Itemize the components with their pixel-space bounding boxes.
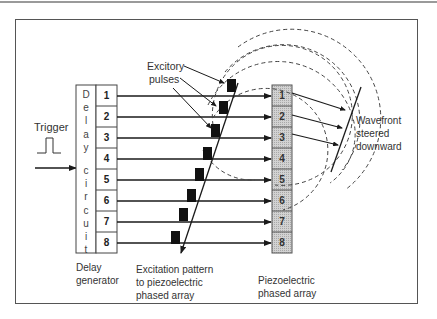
array-element-5: 5 <box>272 169 292 190</box>
excitation-pattern-arrow <box>181 83 238 253</box>
array-element-3: 3 <box>272 127 292 148</box>
piezo-array-label-2: phased array <box>258 288 316 300</box>
delay-letter: a <box>76 128 96 141</box>
delay-vertical-label: D e l a y c i r c u i t <box>76 88 96 256</box>
delay-generator-label-1: Delay <box>76 262 102 274</box>
delay-channel-numbers: 1 2 3 4 5 6 7 8 <box>96 85 117 253</box>
excitation-pattern-label-3: phased array <box>136 290 194 302</box>
array-element-8: 8 <box>272 232 292 253</box>
steered-rays <box>292 93 345 145</box>
delay-letter: c <box>76 204 96 217</box>
array-element-6: 6 <box>272 190 292 211</box>
delay-letter: i <box>76 177 96 190</box>
array-element-7: 7 <box>272 211 292 232</box>
piezo-array-label-1: Piezoelectric <box>258 275 315 287</box>
delay-channel-3: 3 <box>96 127 117 148</box>
array-element-4: 4 <box>272 148 292 169</box>
delay-letter: e <box>76 101 96 114</box>
trigger-label: Trigger <box>34 121 68 133</box>
delay-channel-1: 1 <box>96 85 117 106</box>
wavefront-label-2: steered <box>356 128 389 140</box>
array-element-2: 2 <box>272 106 292 127</box>
delay-channel-4: 4 <box>96 148 117 169</box>
excitory-label-1: Excitory <box>147 60 184 72</box>
excitation-pulses <box>171 79 236 244</box>
excitory-label-2: pulses <box>149 73 179 85</box>
channel-lines <box>117 96 271 243</box>
delay-channel-2: 2 <box>96 106 117 127</box>
delay-letter: r <box>76 190 96 203</box>
delay-letter: u <box>76 217 96 230</box>
delay-channel-6: 6 <box>96 190 117 211</box>
phased-array-diagram <box>0 0 437 319</box>
delay-channel-8: 8 <box>96 232 117 253</box>
delay-letter: t <box>76 243 96 256</box>
excitation-pattern-label-2: to piezoelectric <box>136 277 203 289</box>
array-element-numbers: 1 2 3 4 5 6 7 8 <box>272 85 292 253</box>
wavefront-label-3: downward <box>356 141 402 153</box>
array-element-1: 1 <box>272 85 292 106</box>
delay-generator-label-2: generator <box>76 275 119 287</box>
trigger-pulse-icon <box>37 138 61 153</box>
excitation-pattern-label-1: Excitation pattern <box>136 264 213 276</box>
excitory-pointer-arrows <box>173 66 224 128</box>
delay-letter: y <box>76 141 96 154</box>
delay-letter: i <box>76 230 96 243</box>
delay-letter: D <box>76 88 96 101</box>
delay-channel-5: 5 <box>96 169 117 190</box>
delay-letter: l <box>76 114 96 127</box>
delay-letter: c <box>76 164 96 177</box>
delay-channel-7: 7 <box>96 211 117 232</box>
wavefront-label-1: Wavefront <box>356 115 401 127</box>
